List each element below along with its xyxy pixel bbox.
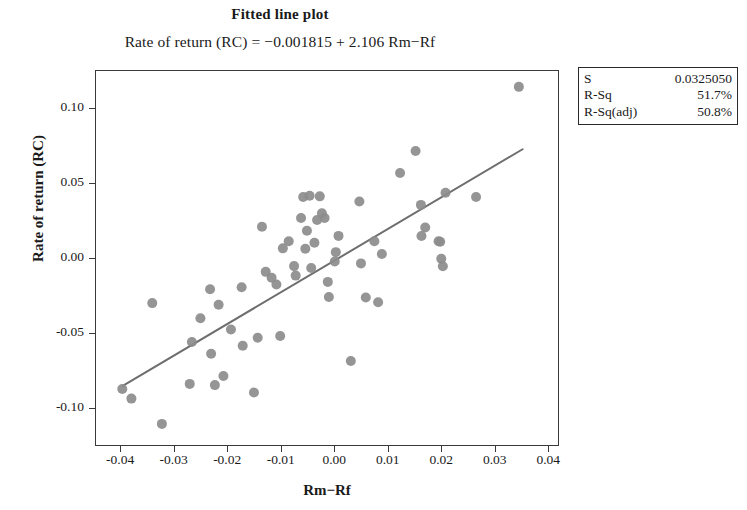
y-tick-mark bbox=[89, 333, 95, 334]
data-point bbox=[309, 238, 319, 248]
data-point bbox=[126, 394, 136, 404]
data-point bbox=[315, 191, 325, 201]
chart-subtitle-equation: Rate of return (RC) = −0.001815 + 2.106 … bbox=[0, 33, 560, 51]
stats-value: 0.0325050 bbox=[675, 71, 732, 87]
data-point bbox=[435, 237, 445, 247]
stats-row: R-Sq51.7% bbox=[584, 87, 732, 103]
data-point bbox=[320, 213, 330, 223]
data-point bbox=[361, 293, 371, 303]
data-point bbox=[514, 82, 524, 92]
data-point bbox=[195, 313, 205, 323]
data-point bbox=[356, 258, 366, 268]
data-point bbox=[257, 222, 267, 232]
data-point bbox=[157, 419, 167, 429]
data-point bbox=[334, 231, 344, 241]
data-point bbox=[185, 379, 195, 389]
fitted-line-plot-figure: Fitted line plot Rate of return (RC) = −… bbox=[0, 0, 747, 510]
data-point bbox=[305, 191, 315, 201]
y-tick-label: 0.00 bbox=[28, 249, 84, 265]
y-tick-mark bbox=[89, 258, 95, 259]
data-point bbox=[226, 324, 236, 334]
data-point bbox=[300, 244, 310, 254]
data-point bbox=[249, 387, 259, 397]
data-point bbox=[330, 256, 340, 266]
stats-row: S0.0325050 bbox=[584, 71, 732, 87]
data-point bbox=[416, 200, 426, 210]
y-tick-mark bbox=[89, 183, 95, 184]
fitted-regression-line bbox=[122, 149, 522, 386]
data-point bbox=[416, 231, 426, 241]
data-point bbox=[411, 146, 421, 156]
y-tick-mark bbox=[89, 108, 95, 109]
stats-value: 50.8% bbox=[697, 104, 732, 120]
data-point bbox=[296, 213, 306, 223]
data-point bbox=[377, 249, 387, 259]
data-point bbox=[441, 188, 451, 198]
data-point bbox=[253, 333, 263, 343]
data-point bbox=[346, 356, 356, 366]
data-point bbox=[438, 261, 448, 271]
x-tick-label: 0.00 bbox=[304, 452, 364, 468]
data-point bbox=[420, 222, 430, 232]
x-tick-label: -0.03 bbox=[144, 452, 204, 468]
x-tick-label: 0.03 bbox=[465, 452, 525, 468]
data-point bbox=[289, 261, 299, 271]
y-tick-label: 0.10 bbox=[28, 99, 84, 115]
data-point bbox=[369, 236, 379, 246]
data-point bbox=[206, 349, 216, 359]
data-point bbox=[354, 196, 364, 206]
y-tick-mark bbox=[89, 408, 95, 409]
data-point bbox=[117, 384, 127, 394]
data-point bbox=[324, 292, 334, 302]
data-point bbox=[471, 192, 481, 202]
x-axis-title: Rm−Rf bbox=[95, 482, 559, 499]
stats-row: R-Sq(adj)50.8% bbox=[584, 104, 732, 120]
x-tick-label: 0.04 bbox=[518, 452, 578, 468]
data-point bbox=[237, 282, 247, 292]
data-point bbox=[210, 380, 220, 390]
data-point bbox=[291, 271, 301, 281]
stats-label: S bbox=[584, 71, 592, 87]
data-point bbox=[284, 236, 294, 246]
x-tick-label: -0.04 bbox=[90, 452, 150, 468]
data-point bbox=[373, 297, 383, 307]
data-point bbox=[306, 263, 316, 273]
data-point bbox=[331, 247, 341, 257]
data-point bbox=[214, 300, 224, 310]
data-point bbox=[218, 371, 228, 381]
x-tick-label: 0.01 bbox=[358, 452, 418, 468]
stats-value: 51.7% bbox=[697, 87, 732, 103]
data-point bbox=[323, 277, 333, 287]
stats-label: R-Sq bbox=[584, 87, 612, 103]
y-tick-label: -0.10 bbox=[28, 399, 84, 415]
data-point bbox=[275, 331, 285, 341]
scatter-canvas bbox=[95, 70, 559, 446]
statistics-box: S0.0325050R-Sq51.7%R-Sq(adj)50.8% bbox=[578, 67, 738, 125]
plot-area bbox=[95, 70, 559, 446]
data-point bbox=[302, 226, 312, 236]
data-point bbox=[271, 279, 281, 289]
x-tick-label: 0.02 bbox=[411, 452, 471, 468]
data-point bbox=[205, 284, 215, 294]
x-tick-label: -0.02 bbox=[197, 452, 257, 468]
stats-label: R-Sq(adj) bbox=[584, 104, 637, 120]
data-point bbox=[187, 337, 197, 347]
chart-title: Fitted line plot bbox=[0, 6, 560, 23]
data-point bbox=[147, 298, 157, 308]
y-tick-label: 0.05 bbox=[28, 174, 84, 190]
x-tick-label: -0.01 bbox=[251, 452, 311, 468]
data-point bbox=[395, 168, 405, 178]
y-tick-label: -0.05 bbox=[28, 324, 84, 340]
data-point bbox=[238, 341, 248, 351]
